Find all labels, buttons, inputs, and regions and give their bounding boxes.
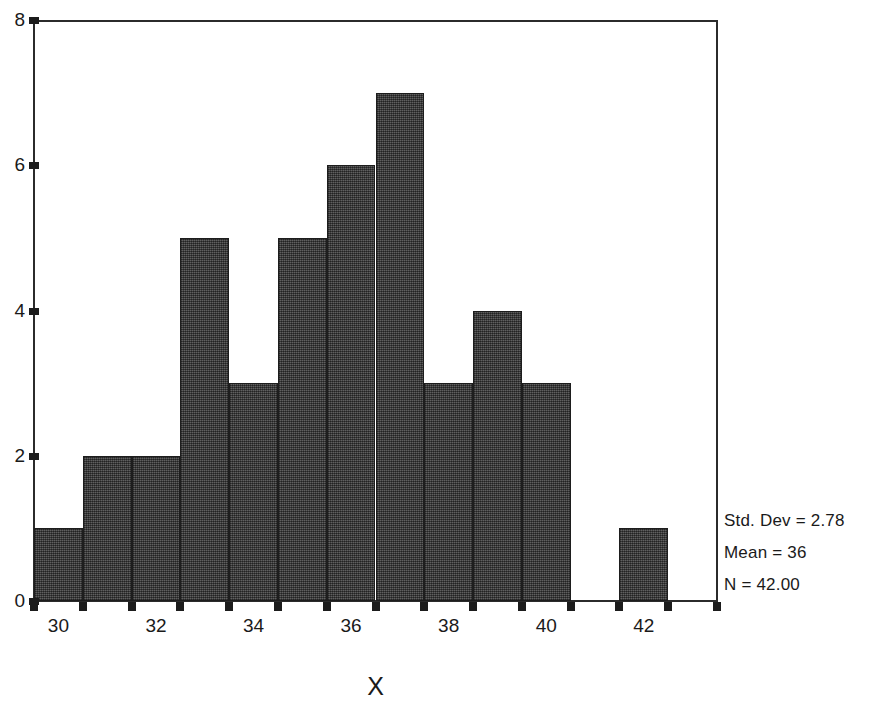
y-tick-label: 6 [0, 155, 25, 174]
x-tick-mark [567, 602, 575, 611]
x-tick-label: 40 [516, 615, 576, 637]
x-tick-mark [664, 602, 672, 611]
histogram-bar [327, 165, 376, 601]
y-tick-mark [29, 453, 39, 460]
x-tick-mark [274, 602, 282, 611]
y-tick-mark [29, 308, 39, 315]
x-tick-label: 32 [126, 615, 186, 637]
x-tick-mark [225, 602, 233, 611]
y-tick-label: 0 [0, 591, 25, 610]
histogram-chart: 02468 30323436384042 Std. Dev = 2.78 Mea… [0, 0, 873, 714]
y-tick-label: 8 [0, 10, 25, 29]
n-annotation: N = 42.00 [724, 569, 869, 601]
histogram-bar [229, 383, 278, 601]
x-tick-label: 30 [28, 615, 88, 637]
x-tick-mark [323, 602, 331, 611]
histogram-bar [180, 238, 229, 601]
histogram-bar [83, 456, 132, 601]
statistics-annotations: Std. Dev = 2.78 Mean = 36 N = 42.00 [724, 505, 869, 601]
y-tick-label: 2 [0, 446, 25, 465]
x-axis-title: X [33, 672, 718, 700]
y-tick-mark [29, 162, 39, 169]
x-tick-mark [30, 602, 38, 611]
histogram-bar [522, 383, 571, 601]
y-tick-label: 4 [0, 301, 25, 320]
x-tick-mark [79, 602, 87, 611]
x-tick-mark [518, 602, 526, 611]
mean-annotation: Mean = 36 [724, 537, 869, 569]
x-tick-mark [469, 602, 477, 611]
plot-frame-top [33, 20, 718, 22]
histogram-bar [132, 456, 181, 601]
y-tick-mark [29, 17, 39, 24]
histogram-bar [619, 528, 668, 601]
std-dev-annotation: Std. Dev = 2.78 [724, 505, 869, 537]
x-tick-label: 38 [419, 615, 479, 637]
x-tick-mark [128, 602, 136, 611]
histogram-bar [376, 93, 425, 601]
histogram-bar [278, 238, 327, 601]
plot-frame-right [716, 20, 718, 602]
x-tick-label: 36 [321, 615, 381, 637]
x-tick-mark [176, 602, 184, 611]
x-tick-mark [420, 602, 428, 611]
x-tick-label: 34 [224, 615, 284, 637]
x-tick-label: 42 [614, 615, 674, 637]
histogram-bar [34, 528, 83, 601]
histogram-bar [473, 311, 522, 602]
x-tick-mark [372, 602, 380, 611]
x-tick-mark [713, 602, 721, 611]
histogram-bar [424, 383, 473, 601]
x-tick-mark [615, 602, 623, 611]
